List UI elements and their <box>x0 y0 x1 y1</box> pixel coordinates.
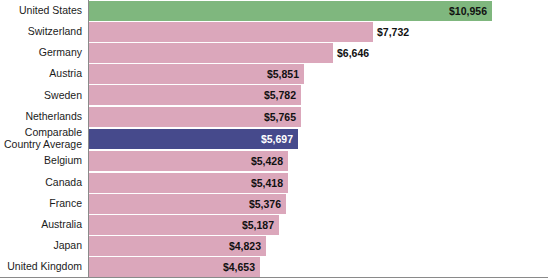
value-label: $5,697 <box>261 133 298 145</box>
bar-chart: United States$10,956Switzerland$7,732Ger… <box>0 0 548 278</box>
category-label: France <box>0 198 88 210</box>
category-label: Sweden <box>0 90 88 102</box>
bar-area: $5,765 <box>88 106 548 127</box>
bar-area: $7,732 <box>88 21 548 42</box>
value-label: $5,765 <box>264 111 301 123</box>
chart-row: United States$10,956 <box>0 0 548 21</box>
axis-baseline <box>88 0 89 278</box>
value-label: $4,653 <box>223 261 260 273</box>
bar-area: $5,418 <box>88 172 548 193</box>
bar-area: $4,823 <box>88 236 548 257</box>
bar-area: $5,851 <box>88 64 548 85</box>
chart-row: Sweden$5,782 <box>0 85 548 106</box>
bar-area: $5,782 <box>88 85 548 106</box>
bar-area: $4,653 <box>88 257 548 278</box>
chart-row: United Kingdom$4,653 <box>0 257 548 278</box>
chart-row: Netherlands$5,765 <box>0 106 548 127</box>
category-label: Comparable Country Average <box>0 127 88 151</box>
bar-area: $6,646 <box>88 42 548 63</box>
value-label: $5,376 <box>249 198 286 210</box>
bar-area: $10,956 <box>88 0 548 21</box>
bar: $10,956 <box>88 1 492 21</box>
value-label: $5,187 <box>242 219 279 231</box>
category-label: United States <box>0 5 88 17</box>
bar: $5,428 <box>88 151 288 171</box>
bar-area: $5,376 <box>88 193 548 214</box>
chart-row: Germany$6,646 <box>0 42 548 63</box>
chart-row: France$5,376 <box>0 193 548 214</box>
bar-area: $5,697 <box>88 127 548 151</box>
bar: $4,653 <box>88 257 260 277</box>
bar: $5,418 <box>88 173 288 193</box>
bar: $6,646 <box>88 43 333 63</box>
category-label: Netherlands <box>0 111 88 123</box>
value-label: $10,956 <box>449 5 492 17</box>
value-label: $6,646 <box>337 47 369 59</box>
value-label: $7,732 <box>377 26 409 38</box>
category-label: Canada <box>0 177 88 189</box>
bar-area: $5,187 <box>88 214 548 235</box>
bar: $5,697 <box>88 129 298 149</box>
value-label: $4,823 <box>229 240 266 252</box>
category-label: Germany <box>0 47 88 59</box>
chart-rows: United States$10,956Switzerland$7,732Ger… <box>0 0 548 278</box>
chart-row: Comparable Country Average$5,697 <box>0 127 548 151</box>
chart-row: Canada$5,418 <box>0 172 548 193</box>
category-label: United Kingdom <box>0 261 88 273</box>
bar: $5,376 <box>88 194 286 214</box>
value-label: $5,851 <box>267 68 304 80</box>
bar: $5,187 <box>88 215 279 235</box>
category-label: Austria <box>0 68 88 80</box>
chart-row: Japan$4,823 <box>0 236 548 257</box>
category-label: Belgium <box>0 155 88 167</box>
bar: $4,823 <box>88 236 266 256</box>
bar: $7,732 <box>88 22 373 42</box>
category-label: Switzerland <box>0 26 88 38</box>
chart-row: Austria$5,851 <box>0 64 548 85</box>
value-label: $5,782 <box>264 89 301 101</box>
bar-area: $5,428 <box>88 151 548 172</box>
chart-row: Australia$5,187 <box>0 214 548 235</box>
category-label: Japan <box>0 240 88 252</box>
category-label: Australia <box>0 219 88 231</box>
bar: $5,782 <box>88 85 301 105</box>
value-label: $5,428 <box>251 155 288 167</box>
chart-row: Switzerland$7,732 <box>0 21 548 42</box>
bar: $5,765 <box>88 107 301 127</box>
chart-row: Belgium$5,428 <box>0 151 548 172</box>
value-label: $5,418 <box>251 177 288 189</box>
bar: $5,851 <box>88 64 304 84</box>
